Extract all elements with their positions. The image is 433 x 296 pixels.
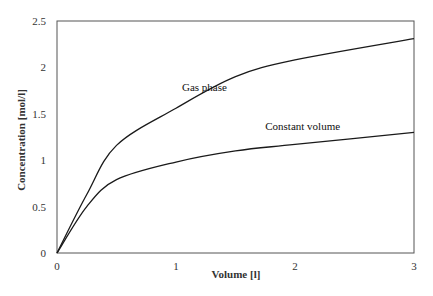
y-tick-label: 2.5 [32, 15, 46, 27]
annotation-label: Gas phase [182, 81, 227, 93]
y-tick-label: 1.5 [32, 108, 46, 120]
y-axis-title: Concentration [mol/l] [15, 89, 27, 191]
line-chart: 00.511.522.5 0123 Gas phaseConstant volu… [0, 0, 433, 296]
series-line-gas-phase [57, 39, 414, 253]
y-tick-label: 1 [41, 154, 47, 166]
series-lines [57, 39, 414, 253]
x-tick-label: 3 [411, 260, 417, 272]
y-tick-label: 2 [41, 61, 47, 73]
y-axis-ticks: 00.511.522.5 [32, 15, 46, 259]
series-line-constant-volume [57, 132, 414, 253]
y-tick-label: 0.5 [32, 201, 46, 213]
x-tick-label: 1 [173, 260, 179, 272]
x-tick-label: 2 [292, 260, 298, 272]
x-axis-title: Volume [l] [212, 268, 261, 280]
annotation-label: Constant volume [265, 120, 340, 132]
annotations: Gas phaseConstant volume [182, 81, 340, 132]
y-tick-label: 0 [41, 247, 47, 259]
plot-frame [57, 21, 414, 253]
x-tick-label: 0 [54, 260, 60, 272]
